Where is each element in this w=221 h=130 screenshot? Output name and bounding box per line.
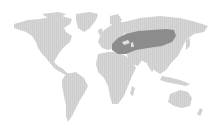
world-map xyxy=(0,0,221,130)
map-svg xyxy=(0,0,221,130)
